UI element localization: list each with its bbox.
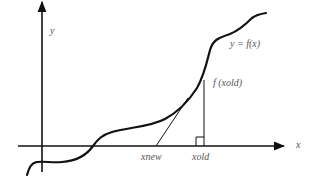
curve-label: y = f(x)	[230, 39, 260, 49]
tick-label-xold: xold	[192, 152, 209, 162]
newton-method-diagram	[0, 0, 312, 191]
tick-label-xnew: xnew	[141, 152, 162, 162]
x-axis-label: x	[296, 140, 300, 150]
right-angle-marker	[196, 137, 204, 146]
y-axis-label: y	[50, 26, 54, 36]
point-label-f-xold: f (xold)	[213, 78, 242, 88]
